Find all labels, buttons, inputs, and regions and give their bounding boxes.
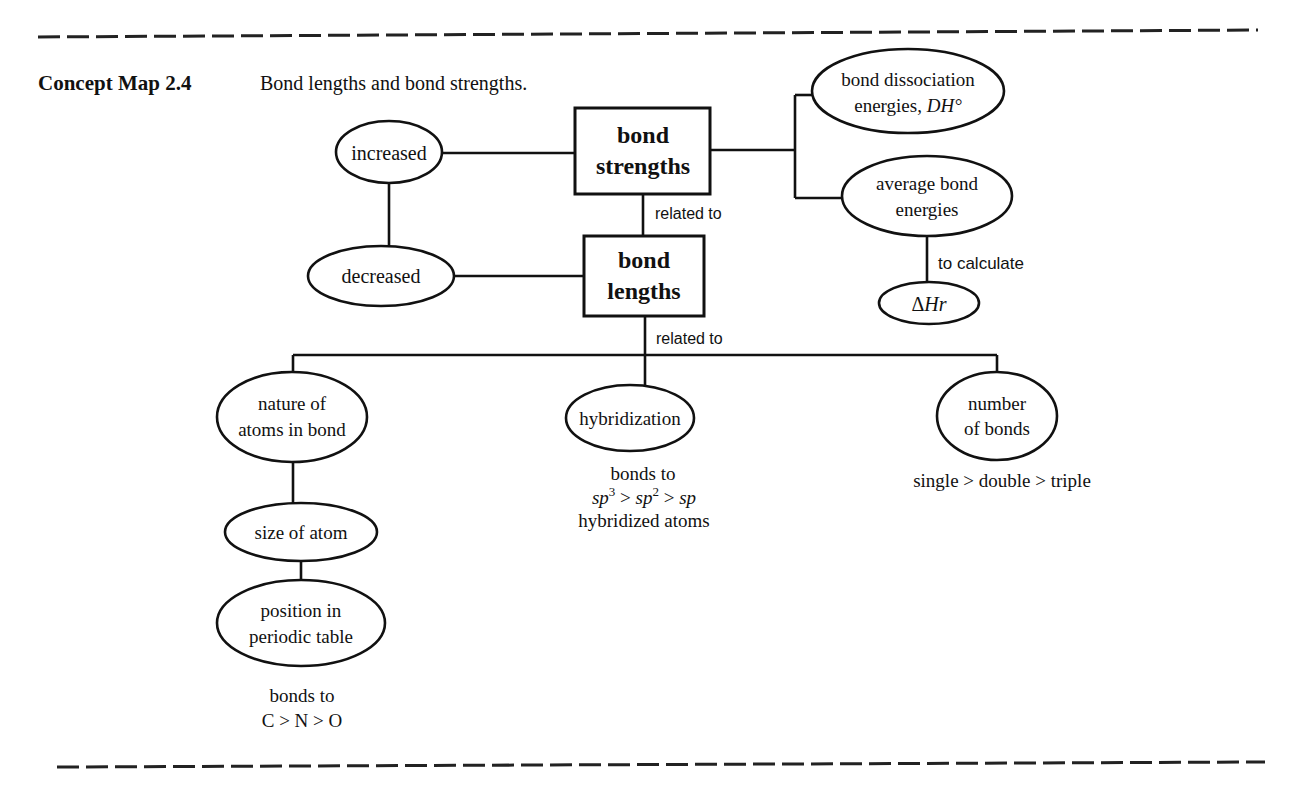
node-hybridization: hybridization xyxy=(566,385,694,451)
svg-text:hybridized atoms: hybridized atoms xyxy=(578,510,709,531)
svg-text:atoms in bond: atoms in bond xyxy=(238,419,346,440)
svg-text:ΔHr: ΔHr xyxy=(911,293,946,315)
svg-text:C > N > O: C > N > O xyxy=(262,710,343,731)
svg-text:bond dissociation: bond dissociation xyxy=(841,69,975,90)
node-bond-dissociation-energies: bond dissociation energies, DH° xyxy=(812,49,1004,133)
svg-text:lengths: lengths xyxy=(607,278,680,304)
svg-text:decreased: decreased xyxy=(342,265,421,287)
svg-text:sp3 > sp2 > sp: sp3 > sp2 > sp xyxy=(592,484,696,508)
svg-text:size of atom: size of atom xyxy=(255,522,348,543)
top-dashed-rule xyxy=(38,30,1258,37)
svg-text:bonds to: bonds to xyxy=(270,685,335,706)
node-average-bond-energies: average bond energies xyxy=(842,156,1012,236)
svg-text:hybridization: hybridization xyxy=(579,408,681,429)
node-position-in-periodic-table: position in periodic table xyxy=(217,580,385,666)
svg-text:energies, DH°: energies, DH° xyxy=(854,95,962,116)
concept-map: Concept Map 2.4 Bond lengths and bond st… xyxy=(0,0,1307,788)
node-delta-hr: ΔHr xyxy=(879,282,979,324)
concept-map-caption: Bond lengths and bond strengths. xyxy=(260,72,527,95)
svg-text:periodic table: periodic table xyxy=(249,626,353,647)
svg-text:average bond: average bond xyxy=(876,173,978,194)
node-increased: increased xyxy=(336,121,442,183)
svg-text:bond: bond xyxy=(618,247,671,273)
node-nature-of-atoms: nature of atoms in bond xyxy=(217,372,367,462)
node-size-of-atom: size of atom xyxy=(225,503,377,561)
edge-label-to-calculate: to calculate xyxy=(938,254,1024,273)
periodic-annotation: bonds to C > N > O xyxy=(262,685,343,731)
edge-label-related-to-1: related to xyxy=(655,205,722,222)
hybridization-annotation: bonds to sp3 > sp2 > sp hybridized atoms xyxy=(578,463,709,531)
node-number-of-bonds: number of bonds xyxy=(937,372,1057,460)
svg-text:nature of: nature of xyxy=(258,393,327,414)
svg-text:bond: bond xyxy=(617,122,670,148)
svg-text:of bonds: of bonds xyxy=(964,418,1030,439)
svg-text:bonds to: bonds to xyxy=(611,463,676,484)
node-bond-lengths: bond lengths xyxy=(584,236,704,316)
concept-map-label: Concept Map 2.4 xyxy=(38,71,192,95)
edge-label-related-to-2: related to xyxy=(656,330,723,347)
svg-text:number: number xyxy=(968,393,1027,414)
svg-text:strengths: strengths xyxy=(596,153,690,179)
number-of-bonds-annotation: single > double > triple xyxy=(913,470,1091,491)
svg-text:increased: increased xyxy=(351,142,427,164)
svg-text:position in: position in xyxy=(261,600,342,621)
svg-text:energies: energies xyxy=(896,199,959,220)
bottom-dashed-rule xyxy=(57,762,1265,767)
node-decreased: decreased xyxy=(308,246,454,306)
node-bond-strengths: bond strengths xyxy=(575,108,710,194)
